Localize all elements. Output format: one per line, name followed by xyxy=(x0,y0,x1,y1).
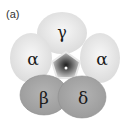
label-alpha-right: α xyxy=(96,49,108,69)
label-gamma: γ xyxy=(57,23,67,42)
central-pore xyxy=(52,52,80,78)
label-delta: δ xyxy=(78,88,88,108)
receptor-diagram: γ α α β δ xyxy=(0,0,127,129)
pore-center-dot xyxy=(65,67,68,70)
label-alpha-left: α xyxy=(27,49,39,69)
label-beta: β xyxy=(39,88,49,108)
